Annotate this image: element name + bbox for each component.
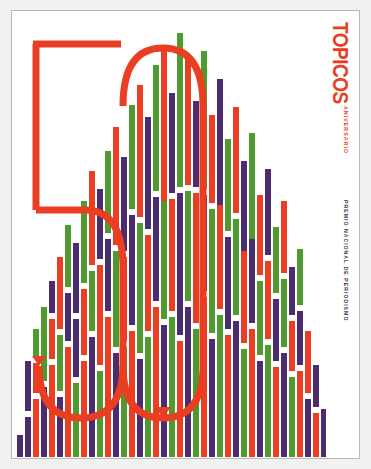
bar-segment (201, 51, 207, 189)
bar-segment (185, 59, 191, 185)
bar-segment (273, 367, 279, 457)
bar-segment (313, 365, 319, 407)
bar-segment (65, 293, 71, 341)
bar-segment (217, 79, 223, 205)
bar-column (33, 329, 39, 457)
bar-segment (161, 201, 167, 319)
bar-segment (281, 353, 287, 457)
bar-column (161, 47, 167, 457)
bar-column (305, 331, 311, 457)
bar-segment (209, 339, 215, 457)
bar-segment (193, 329, 199, 457)
bar-chart-pyramid (15, 14, 326, 457)
bar-segment (121, 347, 127, 457)
page-frame: TOPICOS ANIVERSARIO PREMIO NACIONAL DE P… (11, 10, 360, 459)
bar-segment (225, 237, 231, 329)
bar-segment (297, 249, 303, 305)
bar-segment (225, 139, 231, 231)
bar-column (145, 117, 151, 457)
bar-column (129, 105, 135, 457)
bar-segment (73, 383, 79, 457)
bar-segment (137, 85, 143, 217)
bar-segment (169, 199, 175, 311)
bar-segment (241, 349, 247, 457)
bar-segment (73, 243, 79, 313)
bar-segment (177, 193, 183, 335)
bar-segment (265, 169, 271, 255)
award-label: PREMIO NACIONAL DE PERIODISMO (343, 200, 349, 321)
bar-segment (265, 345, 271, 457)
bar-segment (65, 225, 71, 287)
bar-segment (153, 65, 159, 191)
bar-segment (121, 257, 127, 341)
bar-column (209, 115, 215, 457)
vertical-type-column: TOPICOS ANIVERSARIO PREMIO NACIONAL DE P… (326, 14, 358, 457)
bar-segment (153, 197, 159, 301)
bar-segment (273, 227, 279, 293)
bar-segment (105, 317, 111, 457)
bar-column (177, 33, 183, 457)
bar-segment (33, 399, 39, 457)
bar-column (25, 361, 31, 457)
bar-segment (89, 271, 95, 331)
bar-segment (281, 279, 287, 347)
bar-segment (289, 267, 295, 315)
bar-segment (129, 105, 135, 209)
artboard: TOPICOS ANIVERSARIO PREMIO NACIONAL DE P… (15, 14, 358, 457)
bar-column (57, 257, 63, 457)
bar-column (169, 93, 175, 457)
bar-segment (289, 377, 295, 457)
bar-segment (57, 257, 63, 329)
bar-segment (113, 127, 119, 245)
bar-column (113, 127, 119, 457)
bar-column (41, 307, 47, 457)
bar-segment (105, 151, 111, 233)
bar-segment (201, 195, 207, 291)
bar-column (281, 201, 287, 457)
bar-segment (17, 435, 23, 457)
bar-column (73, 243, 79, 457)
bar-segment (193, 101, 199, 187)
bar-segment (49, 365, 55, 457)
bar-segment (185, 307, 191, 457)
bar-segment (249, 329, 255, 457)
bar-segment (233, 219, 239, 315)
bar-segment (217, 315, 223, 457)
bar-column (121, 157, 127, 457)
bar-column (241, 161, 247, 457)
bar-segment (217, 205, 223, 309)
bar-segment (97, 371, 103, 457)
bar-column (17, 435, 23, 457)
bar-segment (177, 341, 183, 457)
bar-segment (81, 289, 87, 355)
bar-column (233, 107, 239, 457)
bar-column (153, 65, 159, 457)
bar-segment (201, 297, 207, 457)
bar-segment (49, 281, 55, 313)
bar-segment (273, 299, 279, 361)
bar-segment (137, 223, 143, 353)
bar-column (249, 133, 255, 457)
bar-segment (209, 209, 215, 333)
bar-segment (145, 337, 151, 457)
bar-column (289, 267, 295, 457)
bar-column (297, 249, 303, 457)
bar-segment (297, 311, 303, 365)
bar-column (193, 101, 199, 457)
bar-segment (81, 361, 87, 457)
bar-segment (25, 417, 31, 457)
bar-segment (281, 201, 287, 273)
bar-segment (313, 413, 319, 457)
bar-segment (49, 319, 55, 359)
bar-segment (57, 397, 63, 457)
bar-segment (113, 353, 119, 457)
bar-segment (233, 321, 239, 457)
bar-segment (169, 317, 175, 457)
bar-segment (249, 239, 255, 323)
bar-column (185, 59, 191, 457)
poster-root: TOPICOS ANIVERSARIO PREMIO NACIONAL DE P… (0, 0, 371, 469)
bar-segment (257, 361, 263, 457)
bar-segment (209, 115, 215, 203)
bar-segment (265, 261, 271, 339)
bar-segment (153, 307, 159, 457)
